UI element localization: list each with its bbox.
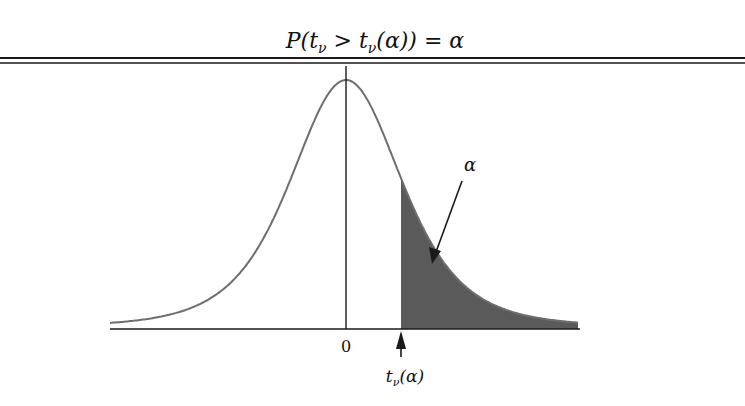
plot-svg	[0, 0, 745, 406]
critical-arrow-head-icon	[396, 331, 406, 349]
zero-tick-label: 0	[338, 337, 354, 356]
density-curve	[110, 80, 578, 323]
t-distribution-figure: P(tν > tν(α)) = α 0 tν(α) α	[0, 0, 745, 406]
alpha-arrow-line	[436, 181, 462, 252]
shaded-tail-area	[401, 178, 578, 329]
critical-value-label: tν(α)	[375, 366, 435, 389]
alpha-label: α	[460, 154, 480, 175]
